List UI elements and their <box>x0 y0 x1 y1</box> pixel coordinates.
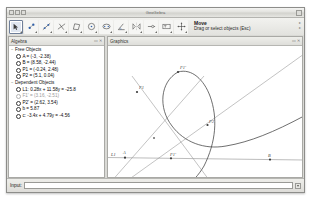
tool-more-corner-icon <box>50 31 52 33</box>
text-tool-button[interactable] <box>159 20 173 34</box>
algebra-group-free-objects[interactable]: − Free Objects <box>11 47 102 54</box>
point-intersection[interactable] <box>153 137 155 139</box>
label-A: A <box>122 150 126 155</box>
move-graphics-view-tool-button[interactable] <box>174 20 188 34</box>
tool-more-corner-icon <box>20 31 22 33</box>
window-titlebar[interactable]: GeoGebra <box>7 8 304 18</box>
algebra-group-label: Dependent Objects <box>15 80 54 87</box>
graphics-panel-header: Graphics ▭ ✕ <box>108 37 302 46</box>
tool-more-corner-icon <box>95 31 97 33</box>
arrow-cursor-icon <box>12 23 20 31</box>
algebra-item-b[interactable]: b = 5.87 <box>11 106 102 113</box>
circle-tool-button[interactable] <box>84 20 98 34</box>
desktop-background: GeoGebra <box>0 0 311 209</box>
point-A[interactable] <box>124 157 126 159</box>
algebra-item-P2-prime[interactable]: P2' = (2.62, 3.54) <box>11 100 102 107</box>
point-B[interactable] <box>269 159 271 161</box>
label-F1-prime-axis: F1' <box>169 152 176 157</box>
slider-tool-button[interactable] <box>144 20 158 34</box>
input-field[interactable] <box>24 182 293 189</box>
visibility-toggle-icon[interactable] <box>16 87 21 92</box>
algebra-panel-close-button[interactable]: ✕ <box>99 39 102 43</box>
tool-more-corner-icon <box>80 31 82 33</box>
main-toolbar: Move Drag or select objects (Esc) ▸ ▸ <box>7 18 304 36</box>
algebra-item-P2[interactable]: P2 = (5.1, 0.04) <box>11 73 102 80</box>
input-dropdown-button[interactable] <box>295 183 301 189</box>
algebra-item-text: c: -3.4x + 4.79y = -4.56 <box>23 113 70 120</box>
line-tool-button[interactable] <box>39 20 53 34</box>
graphics-panel-buttons[interactable]: ▭ ✕ <box>292 39 301 43</box>
conic-curve-upper <box>163 72 302 147</box>
algebra-panel-header: Algebra ▭ ✕ <box>9 37 104 46</box>
window-body: Algebra ▭ ✕ − Free Objects A = (-3, -2.3… <box>7 35 304 179</box>
construction-drawing: F1' F1 P2 L1 A F1' B <box>108 46 302 177</box>
algebra-item-text: P1 = (-0.24, 2.48) <box>23 67 59 74</box>
algebra-item-B[interactable]: B = (8.58, -2.44) <box>11 60 102 67</box>
angle-tool-button[interactable] <box>114 20 128 34</box>
visibility-toggle-icon[interactable] <box>16 107 21 112</box>
algebra-object-list[interactable]: − Free Objects A = (-3, -2.38) B = (8.58… <box>9 46 104 177</box>
geogebra-window: GeoGebra <box>6 7 305 193</box>
graphics-panel-title: Graphics <box>110 39 292 44</box>
label-F1-prime-top: F1' <box>179 65 186 70</box>
algebra-item-text: B = (8.58, -2.44) <box>23 60 56 67</box>
perpendicular-tool-button[interactable] <box>54 20 68 34</box>
visibility-toggle-icon[interactable] <box>16 94 21 99</box>
window-resize-button[interactable] <box>296 10 302 16</box>
move-tool-button[interactable] <box>9 20 23 34</box>
tool-more-corner-icon <box>185 31 187 33</box>
algebra-item-F1-prime[interactable]: F1' = (3.16, -2.51) <box>11 93 102 100</box>
visibility-toggle-icon[interactable] <box>16 68 21 73</box>
tool-tip-subtitle: Drag or select objects (Esc) <box>194 27 250 32</box>
redo-icon[interactable]: ▸ <box>299 26 301 30</box>
label-L1: L1 <box>110 152 116 157</box>
algebra-group-label: Free Objects <box>15 47 41 54</box>
algebra-item-c[interactable]: c: -3.4x + 4.79y = -4.56 <box>11 113 102 120</box>
tool-more-corner-icon <box>125 31 127 33</box>
graphics-panel: Graphics ▭ ✕ <box>107 36 303 178</box>
label-B: B <box>268 153 271 158</box>
point-F1-prime-axis[interactable] <box>170 157 172 159</box>
algebra-item-A[interactable]: A = (-3, -2.38) <box>11 54 102 61</box>
tool-tip-box: Move Drag or select objects (Esc) <box>194 21 250 31</box>
chevron-down-icon <box>297 185 299 187</box>
point-tool-button[interactable] <box>24 20 38 34</box>
visibility-toggle-icon[interactable] <box>16 54 21 59</box>
visibility-toggle-icon[interactable] <box>16 114 21 119</box>
graphics-panel-close-button[interactable]: ✕ <box>297 39 300 43</box>
algebra-item-L1[interactable]: L1: 0.28x + 11.58y = -25.8 <box>11 87 102 94</box>
input-bar: Input: <box>7 178 304 192</box>
tool-more-corner-icon <box>155 31 157 33</box>
algebra-item-text: F1' = (3.16, -2.51) <box>23 93 60 100</box>
label-F1: F1 <box>138 85 144 90</box>
input-label: Input: <box>10 183 22 188</box>
reflect-tool-button[interactable] <box>129 20 143 34</box>
visibility-toggle-icon[interactable] <box>16 74 21 79</box>
conic-curve-lower <box>178 71 215 177</box>
conic-tool-button[interactable] <box>99 20 113 34</box>
algebra-panel-undock-button[interactable]: ▭ <box>94 39 98 43</box>
algebra-panel: Algebra ▭ ✕ − Free Objects A = (-3, -2.3… <box>8 36 105 178</box>
algebra-item-P1[interactable]: P1 = (-0.24, 2.48) <box>11 67 102 74</box>
tool-more-corner-icon <box>140 31 142 33</box>
algebra-item-text: L1: 0.28x + 11.58y = -25.8 <box>23 87 76 94</box>
graphics-panel-undock-button[interactable]: ▭ <box>292 39 296 43</box>
graphics-canvas[interactable]: F1' F1 P2 L1 A F1' B <box>108 46 302 177</box>
algebra-panel-title: Algebra <box>11 39 94 44</box>
point-F1[interactable] <box>136 91 138 93</box>
algebra-item-text: P2' = (2.62, 3.54) <box>23 100 58 107</box>
point-F1-prime-top[interactable] <box>177 71 179 73</box>
visibility-toggle-icon[interactable] <box>16 61 21 66</box>
algebra-item-text: A = (-3, -2.38) <box>23 54 51 61</box>
polygon-tool-button[interactable] <box>69 20 83 34</box>
visibility-toggle-icon[interactable] <box>16 101 21 106</box>
algebra-item-text: b = 5.87 <box>23 106 40 113</box>
algebra-group-dependent-objects[interactable]: − Dependent Objects <box>11 80 102 87</box>
tool-more-corner-icon <box>110 31 112 33</box>
algebra-panel-buttons[interactable]: ▭ ✕ <box>94 39 103 43</box>
point-P2[interactable] <box>206 124 208 126</box>
toolbar-help-buttons[interactable]: ▸ ▸ <box>299 21 301 30</box>
tool-more-corner-icon <box>170 31 172 33</box>
tool-more-corner-icon <box>65 31 67 33</box>
label-P2: P2 <box>208 119 215 124</box>
